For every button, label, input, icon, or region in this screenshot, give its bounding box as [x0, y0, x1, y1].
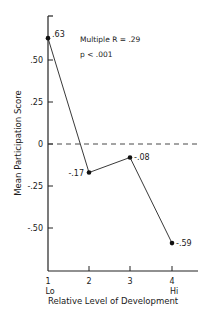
data-points: .63-.17-.08-.59: [46, 30, 192, 248]
line-chart: .50.250-.25-.50 1Lo234Hi .63-.17-.08-.59…: [0, 0, 208, 321]
data-label: -.08: [134, 153, 150, 162]
data-label: .63: [52, 30, 65, 39]
x-tick-label: 3: [127, 277, 132, 286]
y-tick-label: .25: [30, 98, 43, 107]
p-value-annotation: p < .001: [80, 50, 113, 59]
x-tick-label: 1: [45, 277, 50, 286]
data-point: [46, 36, 51, 41]
x-tick-sublabel: Hi: [170, 287, 178, 296]
data-point: [170, 241, 175, 246]
y-axis-label: Mean Participation Score: [13, 90, 23, 195]
y-tick-label: -.25: [27, 182, 43, 191]
y-tick-label: .50: [30, 56, 43, 65]
series-line: [48, 38, 172, 243]
data-label: -.17: [68, 169, 84, 178]
multiple-r-annotation: Multiple R = .29: [80, 35, 141, 44]
data-label: -.59: [176, 239, 192, 248]
x-tick-sublabel: Lo: [45, 287, 54, 296]
data-point: [87, 170, 92, 175]
data-point: [128, 155, 133, 160]
x-tick-label: 4: [169, 277, 174, 286]
y-tick-label: -.50: [27, 224, 43, 233]
y-ticks: .50.250-.25-.50: [27, 56, 53, 233]
y-tick-label: 0: [38, 140, 43, 149]
x-axis-label: Relative Level of Development: [48, 296, 179, 306]
x-tick-label: 2: [86, 277, 91, 286]
